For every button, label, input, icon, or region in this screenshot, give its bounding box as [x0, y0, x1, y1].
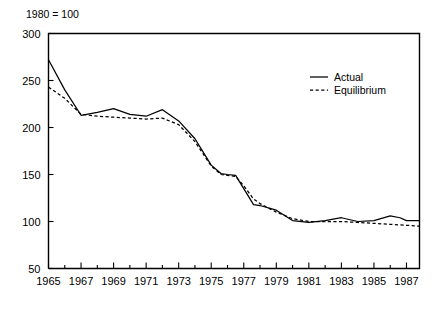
series-line-equilibrium: [49, 87, 420, 226]
x-tick-label: 1965: [36, 275, 60, 287]
x-tick-label: 1979: [264, 275, 288, 287]
x-tick-label: 1983: [329, 275, 353, 287]
y-tick-label: 50: [28, 263, 40, 275]
x-axis-tick-labels: 1965196719691971197319751977197919811983…: [36, 275, 418, 287]
y-tick-label: 250: [22, 75, 40, 87]
chart-title: 1980 = 100: [26, 8, 79, 20]
chart-page: 1980 = 100 30025020015010050 19651967196…: [0, 0, 438, 310]
x-tick-label: 1987: [394, 275, 418, 287]
x-tick-label: 1981: [297, 275, 321, 287]
y-tick-label: 100: [22, 216, 40, 228]
x-tick-label: 1975: [199, 275, 223, 287]
axis-tick-marks: [49, 34, 407, 269]
y-tick-label: 150: [22, 169, 40, 181]
x-tick-label: 1985: [362, 275, 386, 287]
line-chart: 1980 = 100 30025020015010050 19651967196…: [0, 0, 438, 310]
legend-label-actual: Actual: [334, 71, 363, 83]
plot-frame: [49, 34, 420, 269]
x-tick-label: 1973: [166, 275, 190, 287]
x-tick-label: 1967: [69, 275, 93, 287]
y-tick-label: 300: [22, 28, 40, 40]
legend-label-equilibrium: Equilibrium: [334, 84, 386, 96]
x-tick-label: 1977: [232, 275, 256, 287]
x-tick-label: 1971: [134, 275, 158, 287]
y-tick-label: 200: [22, 122, 40, 134]
chart-legend: ActualEquilibrium: [310, 71, 386, 96]
x-tick-label: 1969: [101, 275, 125, 287]
y-axis-tick-labels: 30025020015010050: [22, 28, 40, 275]
